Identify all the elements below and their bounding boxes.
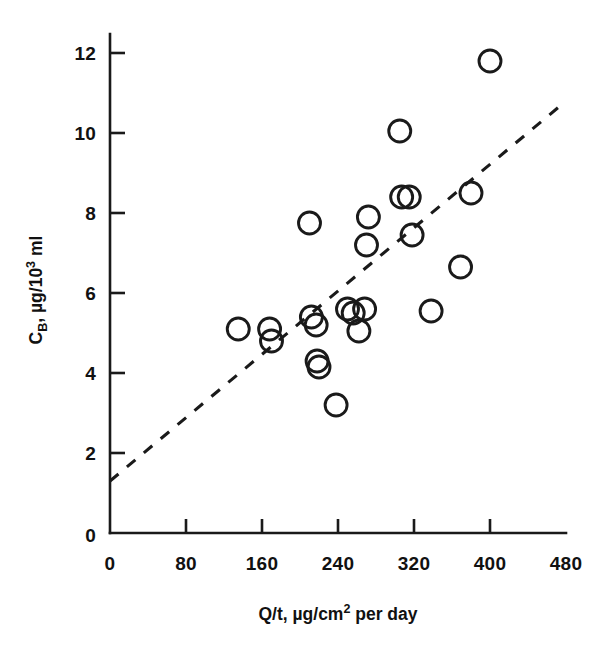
y-axis-title-mid: , µg/10 (26, 268, 46, 323)
x-tick-label-80: 80 (175, 553, 197, 574)
y-tick-label-2: 2 (85, 443, 96, 464)
x-tick-label-320: 320 (398, 553, 430, 574)
x-tick-label-160: 160 (246, 553, 278, 574)
data-point (389, 120, 411, 142)
y-tick-label-0: 0 (85, 525, 96, 546)
y-axis-title-sup: 3 (24, 261, 38, 268)
x-axis-title-post: per day (350, 604, 417, 624)
data-point (460, 182, 482, 204)
y-tick-label-6: 6 (85, 283, 96, 304)
y-tick-label-8: 8 (85, 203, 96, 224)
x-tick-label-400: 400 (474, 553, 506, 574)
chart-canvas: 12 10 8 6 4 2 0 0 80 160 240 320 400 480… (0, 0, 605, 648)
y-axis-title-pre: C (26, 331, 46, 344)
y-tick-label-10: 10 (74, 123, 96, 144)
y-axis-title-sub: B (36, 323, 50, 332)
data-point (325, 394, 347, 416)
data-point (479, 50, 501, 72)
data-point (300, 306, 322, 328)
data-point (227, 318, 249, 340)
data-point (450, 256, 472, 278)
x-axis-title-pre: Q/t, µg/cm (258, 604, 343, 624)
x-tick-labels: 0 80 160 240 320 400 480 (105, 553, 583, 574)
data-point (305, 314, 327, 336)
x-tick-marks (186, 519, 490, 533)
y-tick-label-4: 4 (85, 363, 96, 384)
data-point (356, 234, 378, 256)
y-axis-title: CB, µg/103 ml (24, 236, 50, 345)
y-tick-marks (110, 53, 125, 453)
x-axis-title-sup: 2 (343, 602, 350, 616)
x-tick-label-0: 0 (105, 553, 116, 574)
data-point (299, 212, 321, 234)
y-tick-label-12: 12 (74, 43, 96, 64)
axes-group (110, 34, 566, 533)
trend-line (110, 105, 561, 481)
data-point (420, 300, 442, 322)
x-tick-label-480: 480 (550, 553, 582, 574)
y-axis-title-post: ml (26, 236, 46, 261)
x-axis-title: Q/t, µg/cm2 per day (258, 602, 417, 624)
x-tick-label-240: 240 (322, 553, 354, 574)
datapoints-layer (227, 50, 501, 416)
y-tick-labels: 12 10 8 6 4 2 0 (74, 43, 96, 546)
data-point (357, 206, 379, 228)
scatter-plot-figure: 12 10 8 6 4 2 0 0 80 160 240 320 400 480… (0, 0, 605, 648)
